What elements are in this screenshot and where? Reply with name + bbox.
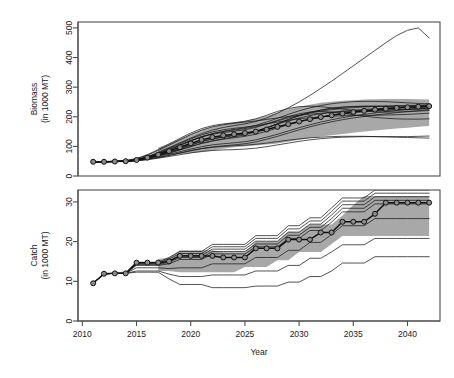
median-marker — [351, 219, 356, 224]
median-marker — [372, 211, 377, 216]
panel-catch: 0102030Catch(in 1000 MT) — [29, 190, 440, 323]
panel-data-biomass — [91, 28, 432, 164]
median-marker — [112, 159, 117, 164]
median-marker — [156, 152, 161, 157]
median-marker — [102, 271, 107, 276]
median-marker — [307, 237, 312, 242]
median-marker — [199, 137, 204, 142]
median-marker — [199, 253, 204, 258]
median-marker — [340, 219, 345, 224]
median-marker — [297, 119, 302, 124]
median-marker — [177, 145, 182, 150]
x-tick-label: 2010 — [73, 329, 92, 339]
y-axis-title-line1: Catch — [29, 244, 39, 266]
y-axis-title-line1: Biomass — [29, 83, 39, 116]
median-marker — [416, 200, 421, 205]
median-marker — [210, 135, 215, 140]
median-marker — [145, 155, 150, 160]
median-marker — [318, 230, 323, 235]
median-marker — [123, 159, 128, 164]
median-marker — [253, 129, 258, 134]
median-marker — [242, 255, 247, 260]
median-marker — [264, 127, 269, 132]
y-tick-label: 500 — [64, 21, 74, 35]
x-tick-label: 2025 — [235, 329, 254, 339]
x-tick-label: 2035 — [344, 329, 363, 339]
median-marker — [167, 149, 172, 154]
median-marker — [427, 104, 432, 109]
median-marker — [394, 105, 399, 110]
median-marker — [275, 246, 280, 251]
median-marker — [221, 255, 226, 260]
median-marker — [405, 105, 410, 110]
median-marker — [307, 117, 312, 122]
median-marker — [329, 113, 334, 118]
y-tick-label: 200 — [64, 109, 74, 123]
x-tick-label: 2020 — [181, 329, 200, 339]
median-marker — [351, 110, 356, 115]
y-tick-label: 20 — [64, 237, 74, 247]
median-marker — [188, 141, 193, 146]
median-marker — [167, 259, 172, 264]
x-tick-label: 2015 — [127, 329, 146, 339]
median-marker — [232, 132, 237, 137]
y-tick-label: 100 — [64, 139, 74, 153]
median-marker — [340, 111, 345, 116]
y-axis-title-line2: (in 1000 MT) — [40, 231, 50, 279]
median-marker — [427, 200, 432, 205]
confidence-ribbon — [158, 196, 429, 272]
median-marker — [112, 271, 117, 276]
median-marker — [394, 200, 399, 205]
median-marker — [318, 115, 323, 120]
median-marker — [286, 237, 291, 242]
x-tick-label: 2040 — [398, 329, 417, 339]
y-tick-label: 0 — [64, 318, 74, 323]
panel-data-catch — [91, 190, 432, 288]
median-marker — [286, 122, 291, 127]
median-marker — [134, 158, 139, 163]
y-tick-label: 300 — [64, 80, 74, 94]
median-marker — [91, 159, 96, 164]
median-marker — [264, 246, 269, 251]
median-marker — [329, 230, 334, 235]
median-marker — [383, 200, 388, 205]
y-tick-label: 0 — [64, 173, 74, 178]
median-marker — [177, 253, 182, 258]
median-marker — [221, 133, 226, 138]
median-marker — [362, 108, 367, 113]
median-marker — [232, 255, 237, 260]
median-marker — [145, 260, 150, 265]
panel-biomass: 0100200300400500Biomass(in 1000 MT) — [29, 21, 440, 179]
x-axis: 2010201520202025203020352040Year — [73, 321, 440, 357]
y-axis-title-line2: (in 1000 MT) — [40, 75, 50, 123]
median-marker — [156, 260, 161, 265]
median-marker — [297, 237, 302, 242]
panel-border — [78, 22, 440, 176]
y-tick-label: 400 — [64, 50, 74, 64]
median-marker — [416, 104, 421, 109]
median-marker — [253, 246, 258, 251]
median-marker — [134, 260, 139, 265]
median-marker — [405, 200, 410, 205]
median-marker — [242, 131, 247, 136]
chart-figure: 0100200300400500Biomass(in 1000 MT)01020… — [0, 0, 454, 378]
median-marker — [383, 106, 388, 111]
median-marker — [123, 271, 128, 276]
median-marker — [372, 107, 377, 112]
x-tick-label: 2030 — [290, 329, 309, 339]
y-tick-label: 30 — [64, 197, 74, 207]
y-tick-label: 10 — [64, 276, 74, 286]
median-marker — [210, 253, 215, 258]
median-marker — [102, 159, 107, 164]
median-marker — [275, 124, 280, 129]
median-marker — [362, 219, 367, 224]
x-axis-title: Year — [250, 347, 267, 357]
projection-chart-svg: 0100200300400500Biomass(in 1000 MT)01020… — [0, 0, 454, 378]
median-marker — [188, 253, 193, 258]
median-marker — [91, 281, 96, 286]
